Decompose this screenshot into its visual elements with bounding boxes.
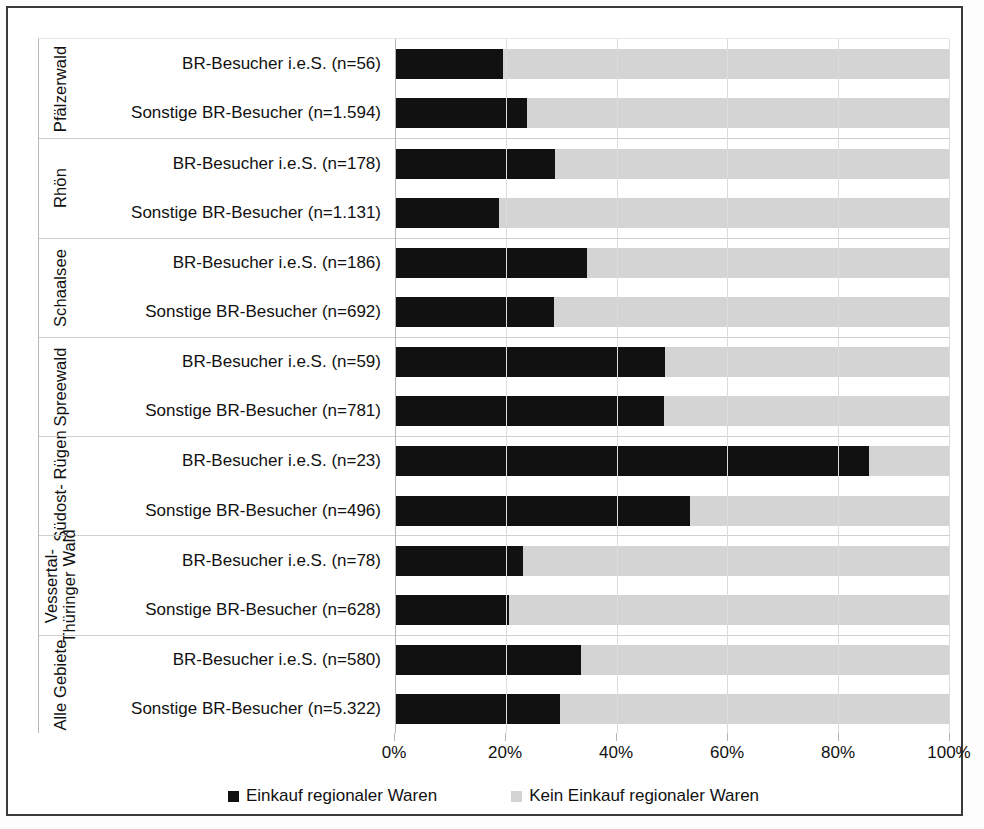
stacked-bar: [395, 297, 949, 327]
group-block: Alle Gebiete: [39, 635, 81, 734]
axis-tick-label: 80%: [821, 743, 855, 763]
stacked-bar: [395, 98, 949, 128]
plot-area: PfälzerwaldRhönSchaalseeSpreewaldSüdost-…: [38, 38, 949, 733]
category-label: BR-Besucher i.e.S. (n=59): [81, 337, 395, 387]
bar-row: [395, 188, 949, 238]
bar-row: [395, 238, 949, 288]
category-label: BR-Besucher i.e.S. (n=186): [81, 238, 395, 288]
bar-segment-einkauf: [395, 595, 509, 625]
bar-row: [395, 39, 949, 89]
bar-segment-kein-einkauf: [554, 297, 949, 327]
category-label-text: BR-Besucher i.e.S. (n=59): [182, 352, 381, 372]
bar-segment-kein-einkauf: [509, 595, 949, 625]
bar-row: [395, 89, 949, 139]
legend-item[interactable]: Einkauf regionaler Waren: [228, 786, 437, 806]
group-label: Pfälzerwald: [51, 45, 69, 131]
axis-tick-label: 60%: [710, 743, 744, 763]
legend-label: Kein Einkauf regionaler Waren: [529, 786, 759, 806]
bar-row: [395, 635, 949, 685]
category-label-text: BR-Besucher i.e.S. (n=186): [173, 253, 381, 273]
bar-segment-einkauf: [395, 248, 587, 278]
bar-row: [395, 337, 949, 387]
bar-segment-einkauf: [395, 645, 581, 675]
category-label-text: Sonstige BR-Besucher (n=692): [145, 302, 381, 322]
stacked-bar: [395, 595, 949, 625]
group-label: Schaalsee: [51, 249, 69, 327]
bar-segment-einkauf: [395, 694, 560, 724]
category-label: Sonstige BR-Besucher (n=628): [81, 585, 395, 635]
axis-tick: [616, 733, 617, 741]
category-label-text: Sonstige BR-Besucher (n=496): [145, 501, 381, 521]
bar-segment-einkauf: [395, 396, 664, 426]
bars-column: [395, 39, 949, 733]
axis-tick-label: 100%: [927, 743, 970, 763]
legend-item[interactable]: Kein Einkauf regionaler Waren: [511, 786, 759, 806]
bar-segment-einkauf: [395, 297, 554, 327]
figure-border: PfälzerwaldRhönSchaalseeSpreewaldSüdost-…: [6, 6, 963, 816]
bar-segment-kein-einkauf: [665, 347, 949, 377]
bar-segment-kein-einkauf: [581, 645, 949, 675]
stacked-bar: [395, 396, 949, 426]
category-label-text: Sonstige BR-Besucher (n=1.131): [131, 203, 381, 223]
group-block: Pfälzerwald: [39, 39, 81, 138]
category-label-text: Sonstige BR-Besucher (n=781): [145, 401, 381, 421]
bar-segment-einkauf: [395, 347, 665, 377]
bar-segment-einkauf: [395, 149, 555, 179]
stacked-bar: [395, 694, 949, 724]
bar-segment-einkauf: [395, 98, 527, 128]
stacked-bar: [395, 645, 949, 675]
category-label: BR-Besucher i.e.S. (n=178): [81, 138, 395, 188]
chart-page: PfälzerwaldRhönSchaalseeSpreewaldSüdost-…: [0, 0, 984, 829]
group-label-column: PfälzerwaldRhönSchaalseeSpreewaldSüdost-…: [39, 39, 81, 733]
gridline: [949, 39, 950, 733]
axis-tick: [394, 733, 395, 741]
group-block: Schaalsee: [39, 238, 81, 337]
bar-segment-einkauf: [395, 446, 869, 476]
stacked-bar: [395, 198, 949, 228]
bar-segment-kein-einkauf: [499, 198, 949, 228]
axis-tick-label: 40%: [599, 743, 633, 763]
bar-segment-einkauf: [395, 49, 503, 79]
axis-tick: [505, 733, 506, 741]
stacked-bar: [395, 446, 949, 476]
bar-segment-einkauf: [395, 198, 499, 228]
axis-tick-label: 0%: [382, 743, 407, 763]
category-label-text: BR-Besucher i.e.S. (n=56): [182, 54, 381, 74]
legend: Einkauf regionaler WarenKein Einkauf reg…: [38, 786, 949, 806]
axis-tick: [949, 733, 950, 741]
category-label: Sonstige BR-Besucher (n=692): [81, 287, 395, 337]
bar-segment-kein-einkauf: [560, 694, 949, 724]
category-label-column: BR-Besucher i.e.S. (n=56)Sonstige BR-Bes…: [81, 39, 395, 733]
category-label: Sonstige BR-Besucher (n=496): [81, 486, 395, 536]
bar-segment-kein-einkauf: [664, 396, 949, 426]
category-label: BR-Besucher i.e.S. (n=56): [81, 39, 395, 89]
bar-segment-einkauf: [395, 546, 523, 576]
category-label-text: BR-Besucher i.e.S. (n=78): [182, 551, 381, 571]
bar-segment-einkauf: [395, 496, 690, 526]
x-axis: 0%20%40%60%80%100%: [394, 733, 949, 773]
axis-tick-label: 20%: [488, 743, 522, 763]
category-label: Sonstige BR-Besucher (n=781): [81, 386, 395, 436]
bar-row: [395, 386, 949, 436]
bar-row: [395, 486, 949, 536]
category-label-text: BR-Besucher i.e.S. (n=23): [182, 451, 381, 471]
axis-tick: [838, 733, 839, 741]
bar-segment-kein-einkauf: [690, 496, 949, 526]
stacked-bar: [395, 49, 949, 79]
group-block: Rhön: [39, 138, 81, 237]
legend-swatch-icon: [228, 791, 239, 802]
category-label: Sonstige BR-Besucher (n=1.594): [81, 89, 395, 139]
legend-label: Einkauf regionaler Waren: [246, 786, 437, 806]
category-label: BR-Besucher i.e.S. (n=23): [81, 436, 395, 486]
category-label: BR-Besucher i.e.S. (n=580): [81, 635, 395, 685]
stacked-bar: [395, 546, 949, 576]
bar-segment-kein-einkauf: [523, 546, 949, 576]
legend-swatch-icon: [511, 791, 522, 802]
bar-row: [395, 436, 949, 486]
category-label: Sonstige BR-Besucher (n=5.322): [81, 684, 395, 734]
bar-row: [395, 138, 949, 188]
category-label-text: BR-Besucher i.e.S. (n=580): [173, 650, 381, 670]
stacked-bar: [395, 149, 949, 179]
category-label-text: BR-Besucher i.e.S. (n=178): [173, 154, 381, 174]
category-label-text: Sonstige BR-Besucher (n=1.594): [131, 103, 381, 123]
